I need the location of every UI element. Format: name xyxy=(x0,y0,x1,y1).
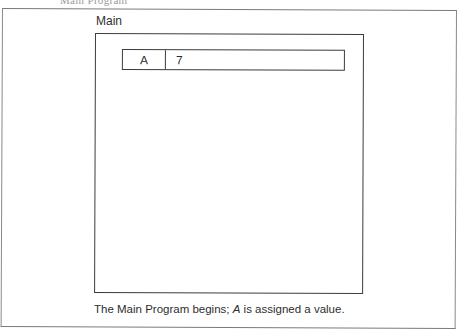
scope-label: Main xyxy=(96,14,122,28)
caption-prefix: The Main Program begins; xyxy=(94,303,233,315)
figure-caption: The Main Program begins; A is assigned a… xyxy=(94,303,345,315)
page-header-fragment: Main Program xyxy=(60,0,127,6)
main-scope-box: A 7 xyxy=(94,33,364,294)
caption-suffix: is assigned a value. xyxy=(240,303,344,315)
variable-value: 7 xyxy=(166,50,344,70)
variable-row: A 7 xyxy=(122,49,345,71)
variable-name: A xyxy=(123,50,166,69)
